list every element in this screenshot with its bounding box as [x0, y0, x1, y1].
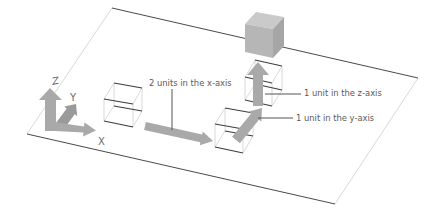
gizmo-x-arrow-icon — [54, 122, 96, 137]
axis-gizmo: Z Y X — [39, 75, 105, 147]
y-move-label: 1 unit in the y-axis — [296, 113, 374, 123]
gizmo-y-label: Y — [69, 92, 77, 103]
x-translation: 2 units in the x-axis — [144, 78, 232, 145]
gizmo-x-label: X — [98, 136, 105, 147]
translation-diagram: Z Y X 2 units in the x-axis — [0, 0, 446, 219]
z-wireframe-box — [245, 60, 282, 106]
plane-front-edge — [27, 134, 335, 204]
cube-front-face — [245, 24, 273, 58]
gizmo-z-label: Z — [52, 75, 59, 87]
origin-wireframe-box — [104, 83, 142, 127]
x-move-label: 2 units in the x-axis — [149, 78, 232, 88]
y-move-arrow-icon — [232, 108, 262, 143]
solid-cube — [245, 12, 284, 58]
y-translation: 1 unit in the y-axis — [232, 108, 374, 143]
ground-plane — [27, 8, 418, 204]
x-move-arrow-icon — [144, 122, 213, 145]
z-move-label: 1 unit in the z-axis — [304, 88, 382, 98]
z-translation: 1 unit in the z-axis — [247, 62, 382, 106]
diagram-canvas: Z Y X 2 units in the x-axis — [0, 0, 446, 219]
